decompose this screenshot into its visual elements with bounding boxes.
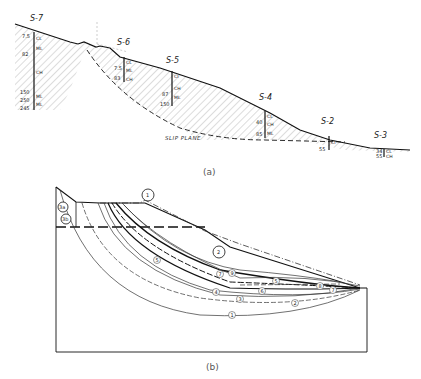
s4-code-1: CL bbox=[267, 114, 273, 119]
label-3b: 3b bbox=[62, 216, 68, 222]
s5-code-1: CI bbox=[174, 74, 178, 79]
svg-text:6: 6 bbox=[261, 288, 264, 294]
s7-depth-1: 7.5 bbox=[22, 33, 30, 39]
svg-text:4: 4 bbox=[215, 289, 218, 295]
s5-code-3: ML bbox=[174, 95, 181, 100]
s5-depth-2: 150 bbox=[160, 101, 170, 107]
s7-depth-4: 250 bbox=[20, 97, 30, 103]
curve-label-9: 9 bbox=[229, 270, 236, 277]
curve-label-1: 1 bbox=[229, 312, 236, 319]
s7-code-2: ML bbox=[36, 46, 43, 51]
svg-text:8: 8 bbox=[319, 283, 322, 289]
s4-code-3: ML bbox=[267, 131, 274, 136]
label-s4: S-4 bbox=[259, 93, 272, 102]
svg-text:7: 7 bbox=[332, 287, 335, 293]
slope-profile bbox=[56, 187, 367, 288]
s6-depth-1: 7.5 bbox=[114, 65, 122, 71]
s6-code-2: ML bbox=[126, 68, 133, 73]
curve-label-3: 3 bbox=[237, 296, 244, 303]
svg-text:2: 2 bbox=[294, 300, 297, 306]
svg-text:5: 5 bbox=[275, 278, 278, 284]
s7-depth-2: 82 bbox=[22, 51, 28, 57]
svg-text:7: 7 bbox=[219, 271, 222, 277]
s6-code-1: CL bbox=[126, 60, 132, 65]
curve-label-8: 8 bbox=[317, 283, 324, 290]
s4-depth-1: 40 bbox=[256, 119, 262, 125]
label-s6: S-6 bbox=[117, 38, 130, 47]
s7-code-1: CL bbox=[36, 36, 42, 41]
label-s7: S-7 bbox=[30, 14, 44, 23]
s4-code-2: CH bbox=[267, 122, 274, 127]
slip-curve-5 bbox=[112, 203, 360, 288]
slip-curve-7 bbox=[116, 203, 360, 288]
s7-code-4: ML bbox=[36, 94, 43, 99]
label-top-2: 2 bbox=[217, 249, 220, 255]
svg-text:1: 1 bbox=[231, 312, 234, 318]
s3-depth-2: 55 bbox=[376, 153, 382, 159]
curve-label-5: 5 bbox=[154, 257, 161, 264]
label-top-1: 1 bbox=[146, 192, 149, 198]
svg-text:3: 3 bbox=[239, 296, 242, 302]
s4-depth-2: 85 bbox=[256, 131, 262, 137]
curve-label-2: 2 bbox=[292, 300, 299, 307]
s2-code-1: CI bbox=[331, 140, 335, 145]
slope-stability-figure: S-7 S-6 S-5 S-4 S-2 S-3 CL ML CH ML ML 7… bbox=[0, 0, 421, 379]
s7-code-3: CH bbox=[36, 70, 43, 75]
curve-label-7: 7 bbox=[330, 287, 337, 294]
figure-b-slip-surfaces: 3a 3b 1 2 1 2 3 4 5 6 7 8 9 7 5 (b) bbox=[56, 187, 367, 372]
s7-code-5: ML bbox=[36, 102, 43, 107]
curve-label-4: 4 bbox=[213, 289, 220, 296]
figure-a-cross-section: S-7 S-6 S-5 S-4 S-2 S-3 CL ML CH ML ML 7… bbox=[15, 14, 410, 177]
curve-label-7b: 7 bbox=[217, 271, 224, 278]
caption-a: (a) bbox=[203, 167, 216, 177]
slip-curve-1 bbox=[60, 190, 360, 316]
s6-code-3: CH bbox=[126, 77, 133, 82]
curve-label-5b: 5 bbox=[273, 278, 280, 285]
s3-code-2: CH bbox=[386, 154, 393, 159]
s2-depth-1: 55 bbox=[319, 146, 325, 152]
slip-curve-4 bbox=[104, 203, 360, 295]
s7-depth-5: 245 bbox=[20, 105, 30, 111]
label-s5: S-5 bbox=[166, 56, 179, 65]
svg-text:5: 5 bbox=[156, 257, 159, 263]
slip-plane-label: SLIP PLANE bbox=[165, 135, 201, 141]
s7-depth-3: 150 bbox=[20, 89, 30, 95]
s5-depth-1: 87 bbox=[162, 91, 168, 97]
svg-text:9: 9 bbox=[231, 270, 234, 276]
caption-b: (b) bbox=[206, 362, 219, 372]
label-s2: S-2 bbox=[321, 117, 334, 126]
s5-code-2: CH bbox=[174, 86, 181, 91]
label-s3: S-3 bbox=[374, 131, 387, 140]
label-3a: 3a bbox=[59, 204, 65, 210]
curve-label-6: 6 bbox=[259, 288, 266, 295]
s6-depth-2: 83 bbox=[114, 75, 120, 81]
